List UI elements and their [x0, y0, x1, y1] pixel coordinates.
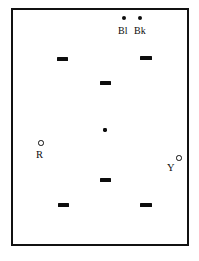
- dash-mid-upper-dash-marker: [100, 81, 111, 85]
- dash-upper-left-dash-marker: [57, 57, 68, 61]
- dash-upper-right-dash-marker: [140, 56, 152, 60]
- label-r: R: [36, 150, 43, 161]
- dash-lower-left-dash-marker: [58, 203, 69, 207]
- plot-frame: [11, 8, 189, 246]
- ring-r-ring-marker: [38, 140, 44, 146]
- figure-caption: [0, 249, 199, 261]
- dash-lower-right-dash-marker: [140, 203, 152, 207]
- dot-bk-dot-marker: [138, 16, 142, 20]
- point-center-point-marker: [103, 128, 107, 132]
- label-y: Y: [167, 163, 175, 174]
- dot-bl-dot-marker: [122, 16, 126, 20]
- figure-root: BlBkRY: [0, 0, 199, 261]
- ring-y-ring-marker: [176, 155, 182, 161]
- label-bl: Bl: [118, 26, 128, 36]
- dash-mid-lower-dash-marker: [100, 178, 111, 182]
- label-bk: Bk: [134, 26, 146, 36]
